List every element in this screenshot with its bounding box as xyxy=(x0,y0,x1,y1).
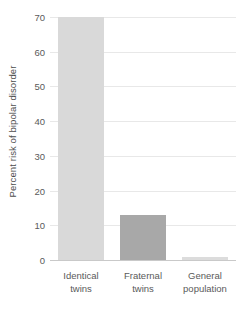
x-axis-category-labels: IdenticaltwinsFraternaltwinsGeneralpopul… xyxy=(50,264,236,309)
plot-area xyxy=(50,0,236,262)
x-axis-label-line: Identical xyxy=(63,270,98,281)
bars-group xyxy=(50,0,236,262)
y-tick-label: 60 xyxy=(34,46,45,57)
x-axis-label-line: Fraternal xyxy=(124,270,162,281)
x-axis-label-line: twins xyxy=(50,283,112,296)
x-axis-label-line: General xyxy=(188,270,222,281)
x-axis-label-line: population xyxy=(174,283,236,296)
x-axis-label-line: twins xyxy=(112,283,174,296)
y-tick-label: 30 xyxy=(34,150,45,161)
bar xyxy=(120,215,166,260)
y-tick-label: 0 xyxy=(40,255,45,266)
y-tick-label: 70 xyxy=(34,12,45,23)
y-axis-tick-labels: 010203040506070 xyxy=(24,0,48,262)
y-axis-title-text: Percent risk of bipolar disorder xyxy=(7,65,18,197)
y-axis-title: Percent risk of bipolar disorder xyxy=(0,0,24,262)
x-axis-label: Generalpopulation xyxy=(174,270,236,295)
bar xyxy=(58,17,104,260)
y-tick-label: 20 xyxy=(34,185,45,196)
x-axis-label: Identicaltwins xyxy=(50,270,112,295)
bar xyxy=(182,257,228,260)
y-tick-label: 50 xyxy=(34,81,45,92)
x-axis-label: Fraternaltwins xyxy=(112,270,174,295)
y-tick-label: 10 xyxy=(34,220,45,231)
bar-chart: Percent risk of bipolar disorder 0102030… xyxy=(0,0,242,309)
y-tick-label: 40 xyxy=(34,116,45,127)
